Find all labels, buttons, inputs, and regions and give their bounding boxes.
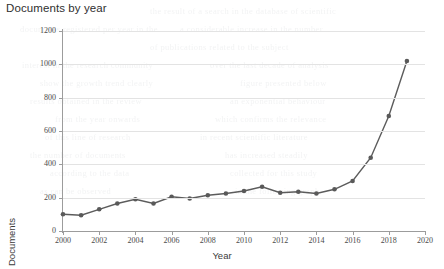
x-axis-tick-mark bbox=[135, 232, 136, 235]
x-axis-tick-mark bbox=[244, 232, 245, 235]
data-point-marker bbox=[405, 59, 410, 64]
plot-area bbox=[63, 31, 425, 231]
data-point-marker bbox=[350, 179, 355, 184]
x-axis-tick-label: 2000 bbox=[43, 236, 83, 245]
x-axis-tick-mark bbox=[316, 232, 317, 235]
y-axis-tick-mark bbox=[59, 231, 62, 232]
data-point-marker bbox=[151, 201, 156, 206]
y-axis-tick-label: 200 bbox=[16, 193, 56, 202]
y-axis-tick-mark bbox=[59, 64, 62, 65]
data-point-marker bbox=[332, 187, 337, 192]
x-axis-tick-label: 2016 bbox=[333, 236, 373, 245]
x-axis-tick-label: 2012 bbox=[260, 236, 300, 245]
x-axis-tick-mark bbox=[353, 232, 354, 235]
x-axis-tick-label: 2002 bbox=[79, 236, 119, 245]
data-point-marker bbox=[242, 189, 247, 194]
x-axis-tick-label: 2004 bbox=[115, 236, 155, 245]
x-axis-tick-mark bbox=[280, 232, 281, 235]
x-axis-tick-label: 2014 bbox=[296, 236, 336, 245]
x-axis-tick-mark bbox=[208, 232, 209, 235]
x-axis-tick-label: 2006 bbox=[152, 236, 192, 245]
x-axis-tick-label: 2018 bbox=[369, 236, 409, 245]
chart-figure: Documents by year Documents Year 0200400… bbox=[0, 0, 444, 269]
data-point-marker bbox=[79, 213, 84, 218]
data-point-marker bbox=[224, 191, 229, 196]
data-point-marker bbox=[368, 155, 373, 160]
y-axis-tick-label: 1000 bbox=[16, 59, 56, 68]
gridline bbox=[63, 198, 425, 199]
data-point-marker bbox=[115, 201, 120, 206]
x-axis-tick-label: 2020 bbox=[405, 236, 444, 245]
y-axis-tick-mark bbox=[59, 31, 62, 32]
y-axis-tick-mark bbox=[59, 131, 62, 132]
gridline bbox=[63, 131, 425, 132]
data-point-marker bbox=[278, 190, 283, 195]
y-axis-tick-mark bbox=[59, 198, 62, 199]
data-point-marker bbox=[387, 114, 392, 119]
chart-title: Documents by year bbox=[6, 2, 107, 14]
y-axis-tick-label: 600 bbox=[16, 126, 56, 135]
y-axis-tick-label: 400 bbox=[16, 159, 56, 168]
data-point-marker bbox=[314, 191, 319, 196]
x-axis-tick-mark bbox=[99, 232, 100, 235]
x-axis-tick-mark bbox=[172, 232, 173, 235]
series-polyline bbox=[63, 61, 407, 215]
x-axis-tick-mark bbox=[389, 232, 390, 235]
x-axis-tick-mark bbox=[425, 232, 426, 235]
data-point-marker bbox=[260, 185, 265, 190]
y-axis-tick-label: 0 bbox=[16, 226, 56, 235]
gridline bbox=[63, 98, 425, 99]
x-axis-title: Year bbox=[0, 250, 444, 261]
gridline bbox=[63, 31, 425, 32]
y-axis-tick-label: 1200 bbox=[16, 26, 56, 35]
data-point-marker bbox=[97, 207, 102, 212]
y-axis-tick-mark bbox=[59, 164, 62, 165]
x-axis-tick-mark bbox=[63, 232, 64, 235]
gridline bbox=[63, 164, 425, 165]
x-axis-tick-label: 2008 bbox=[188, 236, 228, 245]
gridline bbox=[63, 64, 425, 65]
y-axis-tick-label: 800 bbox=[16, 93, 56, 102]
data-point-marker bbox=[61, 212, 66, 217]
data-point-marker bbox=[296, 190, 301, 195]
y-axis-tick-mark bbox=[59, 98, 62, 99]
x-axis-tick-label: 2010 bbox=[224, 236, 264, 245]
